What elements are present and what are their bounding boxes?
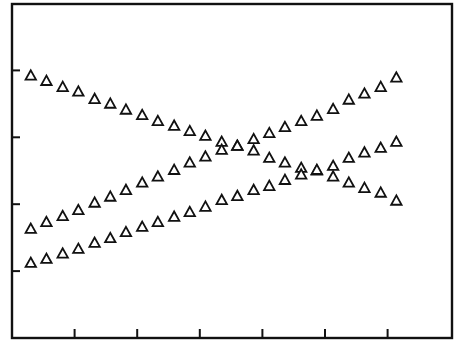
triangle-marker — [89, 197, 99, 206]
plot-frame — [12, 4, 452, 338]
triangle-marker — [153, 116, 163, 125]
triangle-marker — [169, 165, 179, 174]
triangle-marker — [121, 227, 131, 236]
series-c-rising-lower — [26, 137, 402, 267]
triangle-marker — [312, 165, 322, 174]
series-a-falling — [26, 70, 402, 204]
scatter-chart — [0, 0, 463, 349]
triangle-marker — [376, 143, 386, 152]
triangle-marker — [359, 88, 369, 97]
triangle-marker — [312, 110, 322, 119]
triangle-marker — [328, 171, 338, 180]
data-markers — [26, 70, 402, 267]
triangle-marker — [217, 195, 227, 204]
x-axis-ticks — [75, 329, 388, 338]
triangle-marker — [105, 191, 115, 200]
triangle-marker — [137, 110, 147, 119]
triangle-marker — [248, 185, 258, 194]
triangle-marker — [328, 104, 338, 113]
triangle-marker — [41, 76, 51, 85]
triangle-marker — [169, 211, 179, 220]
triangle-marker — [137, 221, 147, 230]
triangle-marker — [185, 157, 195, 166]
triangle-marker — [58, 211, 68, 220]
triangle-marker — [280, 122, 290, 131]
triangle-marker — [328, 161, 338, 170]
triangle-marker — [296, 116, 306, 125]
triangle-marker — [200, 151, 210, 160]
triangle-marker — [105, 233, 115, 242]
triangle-marker — [376, 187, 386, 196]
triangle-marker — [89, 94, 99, 103]
triangle-marker — [344, 153, 354, 162]
triangle-marker — [89, 238, 99, 247]
triangle-marker — [280, 175, 290, 184]
triangle-marker — [121, 104, 131, 113]
triangle-marker — [248, 145, 258, 154]
triangle-marker — [264, 181, 274, 190]
triangle-marker — [359, 147, 369, 156]
triangle-marker — [73, 244, 83, 253]
triangle-marker — [391, 137, 401, 146]
triangle-marker — [391, 72, 401, 81]
triangle-marker — [121, 185, 131, 194]
triangle-marker — [26, 223, 36, 232]
triangle-marker — [41, 254, 51, 263]
triangle-marker — [169, 120, 179, 129]
triangle-marker — [105, 98, 115, 107]
triangle-marker — [73, 86, 83, 95]
triangle-marker — [153, 171, 163, 180]
triangle-marker — [232, 141, 242, 150]
triangle-marker — [200, 201, 210, 210]
triangle-marker — [26, 258, 36, 267]
triangle-marker — [137, 177, 147, 186]
triangle-marker — [264, 153, 274, 162]
triangle-marker — [153, 217, 163, 226]
triangle-marker — [73, 205, 83, 214]
triangle-marker — [41, 217, 51, 226]
triangle-marker — [391, 195, 401, 204]
triangle-marker — [376, 82, 386, 91]
triangle-marker — [280, 157, 290, 166]
triangle-marker — [344, 177, 354, 186]
triangle-marker — [185, 207, 195, 216]
triangle-marker — [58, 248, 68, 257]
triangle-marker — [185, 126, 195, 135]
triangle-marker — [58, 82, 68, 91]
triangle-marker — [200, 131, 210, 140]
triangle-marker — [26, 70, 36, 79]
triangle-marker — [359, 183, 369, 192]
triangle-marker — [264, 128, 274, 137]
triangle-marker — [344, 94, 354, 103]
triangle-marker — [232, 191, 242, 200]
triangle-marker — [248, 134, 258, 143]
